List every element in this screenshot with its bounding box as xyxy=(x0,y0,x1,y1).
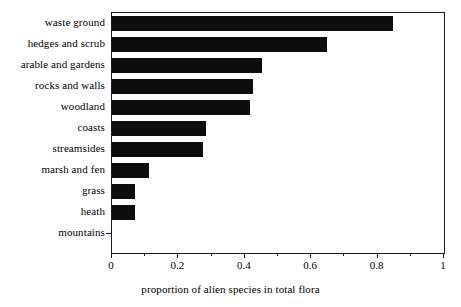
y-axis-label: heath xyxy=(0,206,105,217)
bar xyxy=(112,100,250,115)
x-axis-tick-label: 1 xyxy=(440,259,446,271)
x-axis-major-tick xyxy=(177,253,178,258)
x-axis-tick-labels: 00.20.40.60.81 xyxy=(0,259,461,275)
x-axis-tick-label: 0 xyxy=(108,259,114,271)
y-axis-category-labels: waste groundhedges and scrubarable and g… xyxy=(0,12,105,252)
y-axis-label: streamsides xyxy=(0,143,105,154)
x-axis-minor-tick xyxy=(343,253,344,256)
bar xyxy=(112,142,203,157)
bar xyxy=(112,163,149,178)
bar xyxy=(112,205,135,220)
bar xyxy=(112,16,393,31)
y-axis-label: rocks and walls xyxy=(0,80,105,91)
x-axis-minor-tick xyxy=(144,253,145,256)
y-axis-label: hedges and scrub xyxy=(0,38,105,49)
x-axis-major-tick xyxy=(377,253,378,258)
x-axis-major-tick xyxy=(443,253,444,258)
y-axis-label: coasts xyxy=(0,122,105,133)
y-axis-label: mountains xyxy=(0,227,105,238)
bar-chart: waste groundhedges and scrubarable and g… xyxy=(0,0,461,307)
x-axis-tick-label: 0.2 xyxy=(171,259,185,271)
bar xyxy=(112,121,206,136)
x-axis-major-tick xyxy=(111,253,112,258)
bar xyxy=(112,37,327,52)
x-axis-title: proportion of alien species in total flo… xyxy=(0,283,461,296)
x-axis-major-tick xyxy=(244,253,245,258)
bar xyxy=(112,58,262,73)
x-axis-tick-label: 0.6 xyxy=(303,259,317,271)
bar xyxy=(112,79,253,94)
x-axis-minor-tick xyxy=(277,253,278,256)
y-axis-label: arable and gardens xyxy=(0,59,105,70)
y-axis-label: grass xyxy=(0,185,105,196)
bar xyxy=(112,184,135,199)
x-axis-tick-label: 0.4 xyxy=(237,259,251,271)
bars-layer xyxy=(112,13,444,253)
y-axis-label: waste ground xyxy=(0,17,105,28)
y-axis-label: marsh and fen xyxy=(0,164,105,175)
x-axis-minor-tick xyxy=(211,253,212,256)
x-axis-minor-tick xyxy=(410,253,411,256)
x-axis-tick-label: 0.8 xyxy=(370,259,384,271)
y-axis-label: woodland xyxy=(0,101,105,112)
zero-value-tick xyxy=(106,233,111,234)
x-axis-major-tick xyxy=(310,253,311,258)
